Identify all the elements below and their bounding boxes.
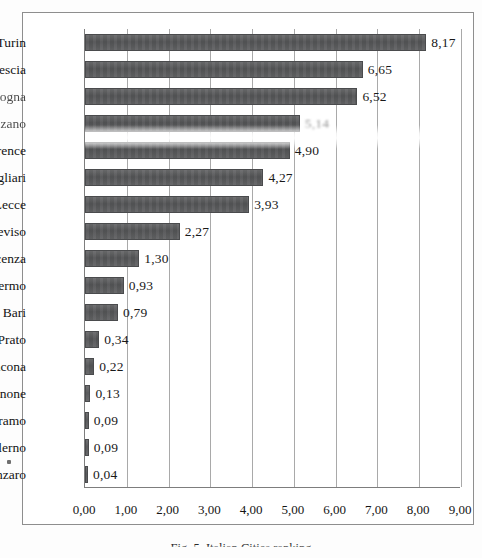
x-tick-9-00: 9,00: [449, 502, 472, 518]
category-label-piacenza: Piacenza: [0, 245, 26, 272]
category-label-palermo: Palermo: [0, 272, 26, 299]
bar-piacenza: [85, 250, 139, 267]
bar-value-bologna: 6,52: [362, 89, 386, 105]
bar-row: 4,27: [85, 164, 461, 191]
category-label-salerno: Salerno: [0, 434, 26, 461]
bar-brescia: [85, 61, 363, 78]
bar-value-prato: 0,34: [104, 332, 128, 348]
bar-prato: [85, 331, 99, 348]
bar-value-bolzano: 5,14: [305, 116, 329, 132]
x-tick-5-00: 5,00: [282, 502, 305, 518]
bar-bolzano: [85, 115, 300, 132]
bar-value-treviso: 2,27: [185, 224, 209, 240]
bar-cagliari: [85, 169, 263, 186]
bar-value-turin: 8,17: [431, 35, 455, 51]
bar-row: 2,27: [85, 218, 461, 245]
category-label-brescia: Brescia: [0, 56, 26, 83]
bar-row: 5,14: [85, 110, 461, 137]
bar-value-salerno: 0,09: [94, 440, 118, 456]
bar-row: 4,90: [85, 137, 461, 164]
bar-value-cagliari: 4,27: [268, 170, 292, 186]
bar-bologna: [85, 88, 357, 105]
bar-value-catanzaro: 0,04: [93, 467, 117, 483]
bar-row: 0,79: [85, 299, 461, 326]
category-label-florence: Florence: [0, 137, 26, 164]
bar-value-piacenza: 1,30: [144, 251, 168, 267]
x-tick-6-00: 6,00: [323, 502, 346, 518]
figure-caption: Fig. 5. Italian Cities ranking: [0, 541, 482, 558]
bar-row: 6,52: [85, 83, 461, 110]
bar-lecce: [85, 196, 249, 213]
chart-plot-area: 8,176,656,525,144,904,273,932,271,300,93…: [84, 29, 460, 488]
bar-row: 0,04: [85, 461, 461, 488]
bar-salerno: [85, 439, 89, 456]
category-label-turin: Turin: [0, 29, 26, 56]
x-axis-tick-labels: 0,001,002,003,004,005,006,007,008,009,00: [84, 500, 460, 522]
category-label-frosinone: Frosinone: [0, 380, 26, 407]
bar-value-brescia: 6,65: [368, 62, 392, 78]
bar-frosinone: [85, 385, 90, 402]
x-tick-1-00: 1,00: [114, 502, 137, 518]
category-label-bari: Bari: [0, 299, 26, 326]
x-tick-8-00: 8,00: [407, 502, 430, 518]
x-tick-7-00: 7,00: [365, 502, 388, 518]
x-tick-0-00: 0,00: [73, 502, 96, 518]
bar-value-bari: 0,79: [123, 305, 147, 321]
bar-value-frosinone: 0,13: [95, 386, 119, 402]
bar-value-teramo: 0,09: [94, 413, 118, 429]
x-tick-3-00: 3,00: [198, 502, 221, 518]
category-label-bologna: Bologna: [0, 83, 26, 110]
category-label-lecce: Lecce: [0, 191, 26, 218]
bar-value-lecce: 3,93: [254, 197, 278, 213]
bar-bari: [85, 304, 118, 321]
category-label-cagliari: Cagliari: [0, 164, 26, 191]
x-tick-4-00: 4,00: [240, 502, 263, 518]
bar-row: 0,22: [85, 353, 461, 380]
bar-ancona: [85, 358, 94, 375]
bar-row: 3,93: [85, 191, 461, 218]
bar-treviso: [85, 223, 180, 240]
category-label-treviso: Treviso: [0, 218, 26, 245]
bar-row: 1,30: [85, 245, 461, 272]
category-label-bolzano: Bolzano: [0, 110, 26, 137]
gridline-9-00: [461, 29, 462, 487]
bar-value-florence: 4,90: [295, 143, 319, 159]
bar-row: 8,17: [85, 29, 461, 56]
page-speck-artifact: [7, 460, 11, 464]
bar-florence: [85, 142, 290, 159]
bar-value-palermo: 0,93: [129, 278, 153, 294]
figure-caption-text: Fig. 5. Italian Cities ranking: [171, 541, 312, 556]
bar-row: 0,09: [85, 434, 461, 461]
bar-value-ancona: 0,22: [99, 359, 123, 375]
bar-turin: [85, 34, 426, 51]
bar-row: 0,34: [85, 326, 461, 353]
bar-catanzaro: [85, 466, 88, 483]
bar-row: 0,09: [85, 407, 461, 434]
bar-palermo: [85, 277, 124, 294]
x-tick-2-00: 2,00: [156, 502, 179, 518]
bar-row: 6,65: [85, 56, 461, 83]
category-label-ancona: Ancona: [0, 353, 26, 380]
category-label-teramo: Teramo: [0, 407, 26, 434]
bar-row: 0,93: [85, 272, 461, 299]
category-label-catanzaro: Catanzaro: [0, 461, 26, 488]
figure-frame: 8,176,656,525,144,904,273,932,271,300,93…: [22, 12, 474, 525]
category-label-prato: Prato: [0, 326, 26, 353]
bar-row: 0,13: [85, 380, 461, 407]
bar-teramo: [85, 412, 89, 429]
